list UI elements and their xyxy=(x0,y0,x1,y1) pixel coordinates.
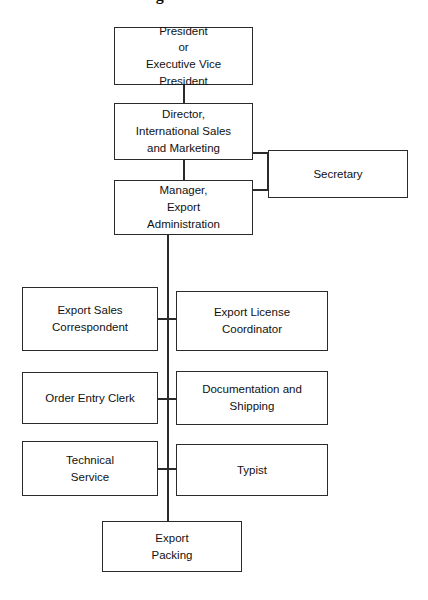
org-box-president[interactable]: President or Executive Vice President xyxy=(114,27,253,85)
org-box-documentation-and-shipping-label: Documentation and Shipping xyxy=(196,381,308,414)
org-box-secretary[interactable]: Secretary xyxy=(268,150,408,198)
connector-director-to-manager xyxy=(183,160,185,180)
chart-title: Organization Chart 1 xyxy=(0,0,428,4)
connector-trunk-to-documentation-and-shipping xyxy=(167,398,176,400)
connector-main-trunk xyxy=(167,235,169,521)
org-box-order-entry-clerk-label: Order Entry Clerk xyxy=(39,390,140,407)
org-box-director[interactable]: Director, International Sales and Market… xyxy=(114,103,253,160)
org-box-export-license-coordinator[interactable]: Export License Coordinator xyxy=(176,291,328,351)
org-box-export-packing-label: Export Packing xyxy=(146,530,199,563)
org-box-manager[interactable]: Manager, Export Administration xyxy=(114,180,253,235)
org-box-documentation-and-shipping[interactable]: Documentation and Shipping xyxy=(176,371,328,425)
org-box-export-license-coordinator-label: Export License Coordinator xyxy=(208,304,296,337)
org-box-technical-service-label: Technical Service xyxy=(60,452,120,485)
org-box-export-sales-correspondent[interactable]: Export Sales Correspondent xyxy=(22,287,158,351)
org-box-export-sales-correspondent-label: Export Sales Correspondent xyxy=(46,302,134,335)
org-box-typist[interactable]: Typist xyxy=(176,444,328,496)
connector-trunk-to-typist xyxy=(167,468,176,470)
connector-trunk-to-export-license-coordinator xyxy=(167,318,176,320)
org-box-manager-label: Manager, Export Administration xyxy=(141,182,226,232)
org-box-typist-label: Typist xyxy=(231,462,273,479)
org-box-director-label: Director, International Sales and Market… xyxy=(130,106,237,156)
organization-chart: Organization Chart 1 President or Execut… xyxy=(0,0,428,600)
org-box-export-packing[interactable]: Export Packing xyxy=(102,521,242,572)
org-box-secretary-label: Secretary xyxy=(307,166,368,183)
org-box-order-entry-clerk[interactable]: Order Entry Clerk xyxy=(22,372,158,424)
org-box-technical-service[interactable]: Technical Service xyxy=(22,441,158,496)
org-box-president-label: President or Executive Vice President xyxy=(115,23,252,90)
